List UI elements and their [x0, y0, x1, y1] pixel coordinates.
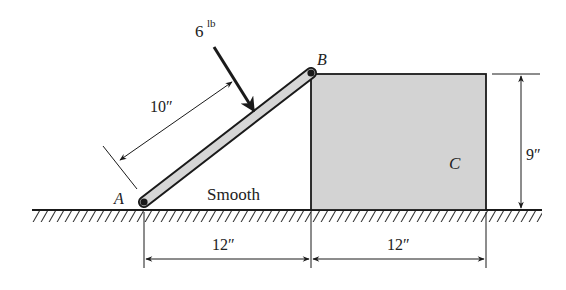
rod-fill: [144, 73, 311, 202]
pin-a-icon: [140, 198, 147, 205]
pin-b-icon: [307, 69, 314, 76]
surface-label: Smooth: [207, 185, 260, 204]
dimension-label-rod-12in: 12″: [212, 236, 235, 253]
block-c-label: C: [449, 154, 461, 173]
block-c: C: [311, 74, 486, 210]
statics-diagram: C A B Smooth 6 lb 10″ 12″ 12″ 9″: [0, 0, 566, 290]
extension-line-a: [103, 146, 137, 189]
dimension-label-10in: 10″: [150, 98, 173, 115]
point-b-label: B: [317, 51, 327, 68]
block-c-body: [311, 74, 486, 210]
dimension-label-9in: 9″: [526, 146, 541, 163]
dimension-force-distance: 10″: [103, 82, 232, 189]
applied-force: 6 lb: [195, 17, 254, 111]
ground-hatching: [32, 210, 542, 222]
force-value-label: 6: [195, 22, 204, 41]
point-a-label: A: [113, 190, 124, 207]
force-arrow-icon: [214, 47, 254, 111]
ground: [32, 210, 542, 222]
dimension-vertical: 9″: [492, 74, 541, 208]
dimension-label-block-12in: 12″: [387, 236, 410, 253]
force-unit-label: lb: [207, 17, 216, 29]
